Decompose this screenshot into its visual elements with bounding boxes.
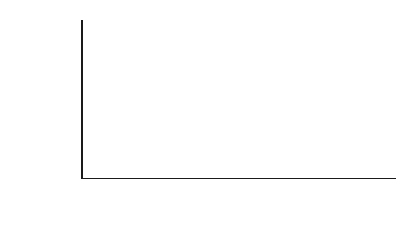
- bar-chart: [0, 0, 410, 237]
- plot-area: [82, 20, 396, 178]
- y-axis-title: [13, 3, 53, 193]
